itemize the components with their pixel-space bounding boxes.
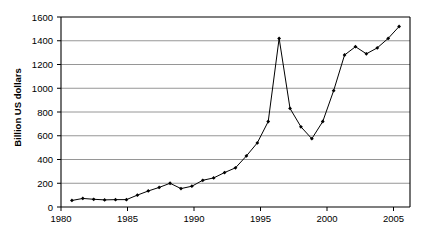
series-markers <box>70 25 401 203</box>
data-point <box>146 189 150 193</box>
xtick-label-1990: 1990 <box>183 213 204 224</box>
x-axis-ticks <box>61 207 394 211</box>
xtick-label-2000: 2000 <box>316 213 337 224</box>
data-point <box>201 178 205 182</box>
data-point <box>125 198 129 202</box>
ytick-label-600: 600 <box>37 130 53 141</box>
ytick-label-800: 800 <box>37 107 53 118</box>
data-point <box>332 89 336 93</box>
series-line <box>72 27 399 201</box>
data-point <box>103 198 107 202</box>
y-axis-ticks <box>57 17 61 207</box>
xtick-label-1980: 1980 <box>50 213 71 224</box>
xtick-label-2005: 2005 <box>383 213 404 224</box>
ytick-label-1400: 1400 <box>32 35 53 46</box>
ytick-label-400: 400 <box>37 154 53 165</box>
data-point <box>168 181 172 185</box>
xtick-label-1985: 1985 <box>117 213 138 224</box>
ytick-label-1200: 1200 <box>32 59 53 70</box>
data-point <box>223 171 227 175</box>
data-point <box>266 120 270 124</box>
data-point <box>92 197 96 201</box>
data-point <box>114 198 118 202</box>
data-point <box>81 197 85 201</box>
data-point <box>70 199 74 203</box>
chart-plot-area: 1600 1400 1200 1000 800 600 400 200 0 19… <box>0 0 425 245</box>
ytick-label-200: 200 <box>37 178 53 189</box>
gridlines <box>61 41 410 184</box>
ytick-label-1600: 1600 <box>32 12 53 23</box>
data-point <box>157 186 161 190</box>
ytick-label-1000: 1000 <box>32 83 53 94</box>
line-chart-figure: Billion US dollars <box>0 0 425 245</box>
data-point <box>135 193 139 197</box>
data-point <box>179 187 183 191</box>
data-point <box>212 176 216 180</box>
xtick-label-1995: 1995 <box>250 213 271 224</box>
data-point <box>190 184 194 188</box>
ytick-label-0: 0 <box>48 202 53 213</box>
data-point <box>277 36 281 40</box>
